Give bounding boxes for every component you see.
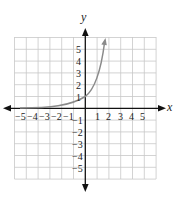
y-tick-label: −3 xyxy=(72,140,83,150)
y-tick-label: 3 xyxy=(76,69,81,79)
x-axis-label: x xyxy=(167,100,172,115)
x-tick-label: −5 xyxy=(15,112,26,122)
coordinate-plane xyxy=(0,0,173,197)
x-tick-label: −3 xyxy=(39,112,50,122)
curve-arrow xyxy=(101,38,107,45)
x-axis-arrow-right xyxy=(158,105,166,112)
y-axis-arrow-down xyxy=(82,184,89,192)
y-axis-arrow-up xyxy=(82,28,89,36)
y-tick-label: 4 xyxy=(76,57,81,67)
y-tick-label: 1 xyxy=(76,93,81,103)
exponential-curve xyxy=(20,43,105,108)
x-tick-label: 4 xyxy=(129,112,134,122)
y-axis-label: y xyxy=(81,10,86,25)
x-tick-label: 2 xyxy=(106,112,111,122)
y-tick-label: 2 xyxy=(76,81,81,91)
x-tick-label: 3 xyxy=(118,112,123,122)
axes xyxy=(6,31,163,189)
y-tick-label: −1 xyxy=(72,116,83,126)
x-tick-label: 1 xyxy=(95,112,100,122)
x-tick-label: −2 xyxy=(51,112,62,122)
x-tick-label: 5 xyxy=(140,112,145,122)
y-tick-label: 5 xyxy=(76,45,81,55)
y-tick-label: −4 xyxy=(72,152,83,162)
x-tick-label: −4 xyxy=(27,112,38,122)
y-tick-label: −2 xyxy=(72,128,83,138)
x-axis-arrow-left xyxy=(3,105,11,112)
y-tick-label: −5 xyxy=(72,164,83,174)
